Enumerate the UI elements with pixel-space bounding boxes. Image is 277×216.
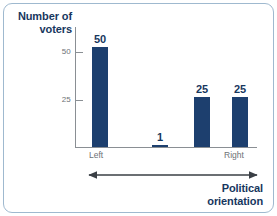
bar-value-label: 50: [80, 34, 120, 45]
y-axis-title: Number of voters: [8, 10, 72, 35]
y-tick-label-50: 50: [43, 48, 71, 56]
x-axis-line: [75, 147, 257, 148]
x-category-label-left: Left: [89, 151, 103, 160]
x-axis-title-line-1: Political: [150, 182, 263, 195]
bar-value-label: 25: [182, 84, 222, 95]
left-right-spectrum-arrow-icon: [85, 167, 261, 183]
bar: [194, 97, 210, 147]
plot-area: 5012525: [75, 27, 257, 147]
bar: [92, 47, 108, 147]
bar-value-label: 1: [140, 132, 180, 143]
x-axis-title: Political orientation: [150, 182, 263, 207]
bar: [152, 145, 168, 147]
y-axis-title-line-2: voters: [8, 23, 72, 36]
x-category-label-right: Right: [224, 151, 244, 160]
y-axis-title-line-1: Number of: [8, 10, 72, 23]
bar-chart-figure: Number of voters 50 25 5012525 Left Righ…: [0, 0, 277, 216]
bar-value-label: 25: [220, 84, 260, 95]
y-tick-label-25: 25: [43, 96, 71, 104]
x-axis-title-line-2: orientation: [150, 195, 263, 208]
bar: [232, 97, 248, 147]
